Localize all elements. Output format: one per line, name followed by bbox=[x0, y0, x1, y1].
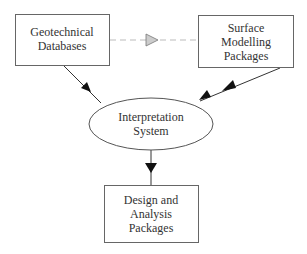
node-surface-modelling-packages: Surface Modelling Packages bbox=[199, 16, 294, 68]
edge-geotechnical-to-surface bbox=[110, 34, 198, 46]
node-label-line: Modelling bbox=[221, 35, 271, 49]
node-label-line: Design and bbox=[124, 193, 178, 207]
arrowhead-icon bbox=[145, 163, 157, 173]
arrowhead-icon bbox=[199, 90, 211, 100]
node-label-line: Surface bbox=[228, 21, 265, 35]
arrowhead-icon bbox=[81, 82, 91, 92]
arrowhead-icon bbox=[222, 80, 236, 91]
node-label-line: Packages bbox=[129, 221, 174, 235]
edge-interpretation-to-design bbox=[145, 150, 157, 185]
node-label-line: Geotechnical bbox=[30, 25, 94, 39]
node-design-analysis-packages: Design and Analysis Packages bbox=[105, 186, 199, 243]
node-label-line: Analysis bbox=[130, 207, 172, 221]
node-label-line: Packages bbox=[224, 49, 269, 63]
node-label-line: Interpretation bbox=[118, 110, 183, 124]
edge-surface-to-interpretation bbox=[199, 68, 280, 101]
gray-triangle-icon bbox=[146, 34, 158, 46]
diagram-canvas: Geotechnical Databases Surface Modelling… bbox=[0, 0, 307, 254]
node-interpretation-system: Interpretation System bbox=[89, 98, 213, 150]
node-label-line: Databases bbox=[38, 39, 87, 53]
node-geotechnical-databases: Geotechnical Databases bbox=[16, 15, 110, 66]
node-label-line: System bbox=[133, 124, 169, 138]
edge-geotechnical-to-interpretation bbox=[64, 66, 101, 103]
